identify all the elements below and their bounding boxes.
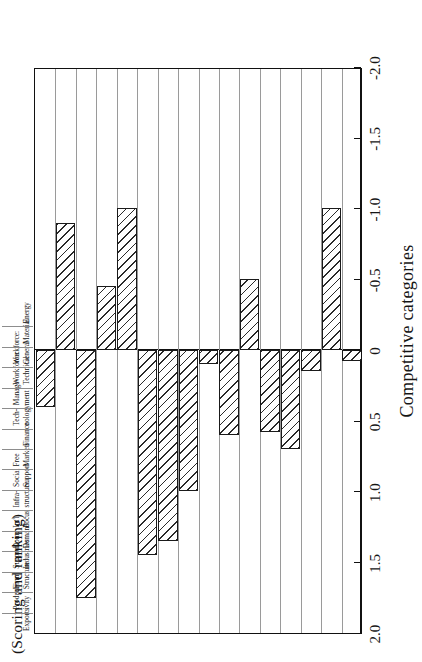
bar [158, 350, 177, 541]
bar [138, 350, 157, 555]
category-label: Exports [2, 614, 33, 634]
axis-tick-label: -2.0 [367, 56, 384, 80]
axis-tick-label: -0.5 [367, 268, 384, 292]
axis-line [361, 68, 362, 634]
category-gridline [55, 69, 56, 633]
category-label-strip: ExportsProduct-ivityFirmStructureSupport… [2, 68, 33, 634]
category-label-line2: Demand [22, 532, 31, 548]
axis-tick [354, 421, 361, 422]
category-label-line2: Structure [22, 573, 31, 589]
axis-tick [354, 209, 361, 210]
category-label: FreeMarkets [2, 450, 33, 470]
category-label-line1: Support [12, 552, 21, 568]
plot-area [34, 68, 361, 634]
axis-tick-label: 2.0 [367, 625, 384, 644]
axis-tick [354, 138, 361, 139]
category-label-line2: nology [22, 409, 31, 425]
category-label-line1: Manage- [12, 389, 21, 405]
axis-tick-label: -1.0 [367, 198, 384, 222]
axis-tick-label: -1.5 [367, 127, 384, 151]
category-label-line2: General [22, 348, 31, 364]
bar [117, 209, 136, 351]
category-label: Finance [2, 430, 33, 450]
axis-tick [354, 279, 361, 280]
bar [281, 350, 300, 449]
axis-tick [354, 633, 361, 634]
bar [179, 350, 198, 492]
bar [301, 350, 320, 371]
category-gridline [321, 69, 322, 633]
category-label-line2: ment [22, 389, 31, 405]
category-gridline [117, 69, 118, 633]
bar [199, 350, 218, 364]
category-label-line1: Infra- [12, 491, 21, 507]
category-label: Workforce:Technical [2, 368, 33, 388]
category-label-line1: Workforce: [12, 368, 21, 384]
axis-tick-label: 0 [367, 347, 384, 355]
bar [240, 279, 259, 350]
category-label-line1: Free [12, 450, 21, 466]
category-label-line1: Exports [22, 614, 31, 631]
category-label-line1: Energy [22, 307, 31, 323]
category-label: Infra-structure [2, 491, 33, 511]
category-label-line2: Technical [22, 368, 31, 384]
figure-stage: (Scoring and ranking) ExportsProduct-ivi… [0, 0, 422, 662]
axis-tick-label: 1.0 [367, 483, 384, 502]
category-label-line1: Tech- [12, 409, 21, 425]
category-label: SocialSupport [2, 471, 33, 491]
category-label-line1: Int'l [12, 511, 21, 527]
bar [76, 350, 95, 598]
axis-tick [354, 492, 361, 493]
category-label-line2: Markets [22, 450, 31, 466]
bar [322, 209, 341, 351]
category-label-line2: Support [22, 471, 31, 487]
axis-tick [354, 350, 361, 351]
category-label-line1: Social [12, 471, 21, 487]
category-label-line2: Industries [22, 552, 31, 568]
category-label-line1: Material [22, 327, 31, 343]
category-label-line2: ivity [22, 593, 31, 609]
bar [36, 350, 55, 407]
category-gridline [239, 69, 240, 633]
category-label-line1: Workforce: [12, 348, 21, 364]
axis-tick-label: 0.5 [367, 412, 384, 431]
category-label-line1: Product- [12, 593, 21, 609]
bar [260, 350, 279, 432]
category-label-line2: structure [22, 491, 31, 507]
category-label: SupportIndustries [2, 552, 33, 572]
figure: (Scoring and ranking) ExportsProduct-ivi… [0, 0, 422, 662]
category-gridline [96, 69, 97, 633]
bar [342, 350, 361, 361]
bar [97, 286, 116, 350]
category-label: Workforce:General [2, 348, 33, 368]
bar [56, 223, 75, 350]
category-label: Material [2, 327, 33, 347]
category-label: Manage-ment [2, 389, 33, 409]
category-label-line2: Focus [22, 511, 31, 527]
category-label: Int'lFocus [2, 511, 33, 531]
category-label-line1: Dom. [12, 532, 21, 548]
category-label: Product-ivity [2, 593, 33, 613]
category-label: Dom.Demand [2, 532, 33, 552]
bar [219, 350, 238, 435]
category-label: Energy [2, 307, 33, 327]
category-label-line1: Finance [22, 430, 31, 446]
axis-tick [354, 67, 361, 68]
category-label: FirmStructure [2, 573, 33, 593]
category-label: Tech-nology [2, 409, 33, 429]
x-axis-caption: Competitive categories [397, 0, 418, 662]
axis-tick-label: 1.5 [367, 554, 384, 573]
axis-tick [354, 562, 361, 563]
category-label-line1: Firm [12, 573, 21, 589]
